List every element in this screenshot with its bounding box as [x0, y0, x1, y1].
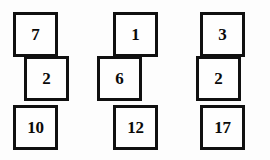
block-value: 2: [214, 70, 222, 87]
block-stack-1-row-1[interactable]: 2: [24, 56, 69, 101]
block-value: 3: [218, 26, 226, 43]
block-value: 2: [42, 70, 50, 87]
block-stack-2-row-1[interactable]: 6: [97, 56, 142, 101]
block-value: 17: [214, 119, 231, 136]
block-value: 6: [115, 70, 123, 87]
block-stack-3-row-2[interactable]: 17: [200, 105, 245, 150]
block-value: 10: [27, 119, 44, 136]
block-stack-2-row-2[interactable]: 12: [113, 105, 158, 150]
block-stack-1-row-2[interactable]: 10: [13, 105, 58, 150]
block-stack-3-row-1[interactable]: 2: [196, 56, 241, 101]
block-value: 1: [131, 26, 139, 43]
block-value: 12: [127, 119, 144, 136]
block-stack-1-row-0[interactable]: 7: [13, 12, 58, 57]
diagram-canvas: 7 2 10 1 6 12 3 2 17: [0, 0, 270, 160]
block-stack-2-row-0[interactable]: 1: [113, 12, 158, 57]
block-stack-3-row-0[interactable]: 3: [200, 12, 245, 57]
block-value: 7: [31, 26, 39, 43]
